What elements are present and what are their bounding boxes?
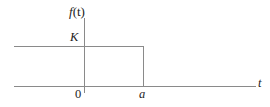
pulse-plateau-line [14, 46, 144, 47]
breakpoint-label: a [139, 88, 145, 101]
step-function-figure: f(t) K 0 a t [0, 0, 270, 107]
amplitude-label: K [70, 31, 78, 44]
origin-label: 0 [75, 88, 81, 101]
pulse-falling-edge-line [143, 46, 144, 87]
t-axis-line [14, 86, 256, 87]
y-axis-label: f(t) [69, 5, 85, 18]
y-axis-argument: (t) [73, 4, 85, 19]
f-axis-line [84, 18, 85, 93]
x-axis-label: t [258, 77, 261, 90]
